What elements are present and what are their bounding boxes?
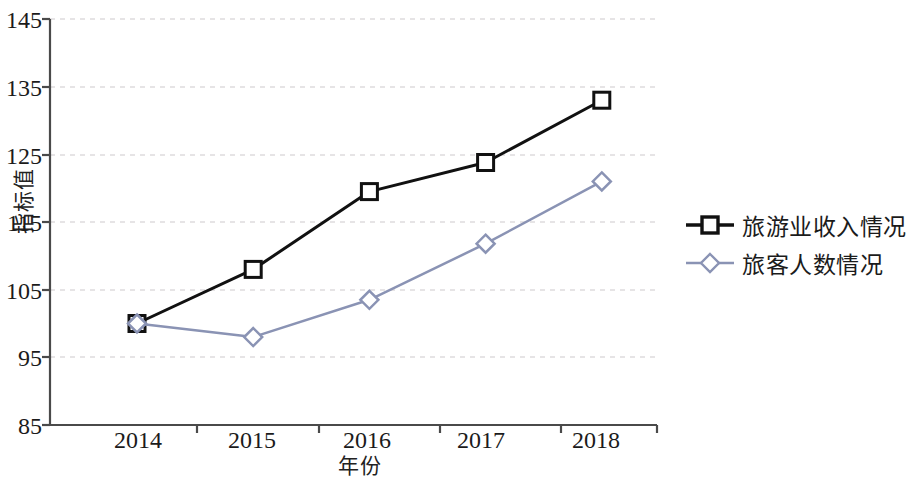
data-point-0-3[interactable] <box>478 155 494 171</box>
data-point-0-4[interactable] <box>594 92 610 108</box>
chart-legend: 旅游业收入情况 旅客人数情况 <box>684 206 907 282</box>
data-point-1-4[interactable] <box>593 172 611 190</box>
square-marker-icon <box>684 213 736 237</box>
series-line-1 <box>137 181 602 337</box>
data-point-0-1[interactable] <box>245 261 261 277</box>
data-point-0-2[interactable] <box>361 184 377 200</box>
data-point-1-2[interactable] <box>360 291 378 309</box>
diamond-marker-icon <box>684 251 736 275</box>
legend-item-visitors[interactable]: 旅客人数情况 <box>684 244 907 282</box>
x-axis-ticks <box>197 425 657 433</box>
data-point-1-1[interactable] <box>244 328 262 346</box>
legend-item-revenue[interactable]: 旅游业收入情况 <box>684 206 907 244</box>
y-axis-ticks <box>42 19 50 425</box>
data-point-1-3[interactable] <box>477 235 495 253</box>
gridlines <box>50 19 657 357</box>
legend-label-visitors: 旅客人数情况 <box>742 246 883 280</box>
series-layer <box>128 92 611 346</box>
legend-label-revenue: 旅游业收入情况 <box>742 208 907 242</box>
